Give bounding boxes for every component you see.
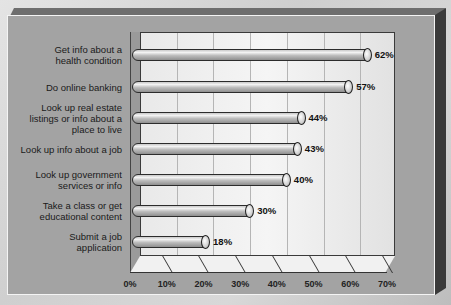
category-label: Do online banking: [4, 82, 122, 93]
gridline: [360, 33, 361, 255]
bar-end-cap: [297, 111, 306, 125]
bar-end-cap: [293, 142, 302, 156]
value-label: 62%: [375, 49, 394, 60]
value-label: 44%: [309, 112, 328, 123]
bar: [132, 49, 368, 61]
plot-floor-edge: [130, 272, 387, 273]
category-label: Look up info about a job: [4, 144, 122, 155]
value-label: 43%: [305, 143, 324, 154]
x-tick-label: 50%: [299, 279, 329, 289]
value-label: 18%: [213, 236, 232, 247]
x-tick-label: 70%: [372, 279, 402, 289]
bar-end-cap: [282, 173, 291, 187]
value-label: 40%: [294, 174, 313, 185]
bar-end-cap: [201, 235, 210, 249]
x-tick-label: 0%: [115, 279, 145, 289]
bar: [132, 81, 349, 93]
bar: [132, 143, 298, 155]
bar: [132, 112, 302, 124]
x-tick-label: 10%: [152, 279, 182, 289]
bar: [132, 174, 287, 186]
x-tick-label: 20%: [188, 279, 218, 289]
bar-end-cap: [363, 48, 372, 62]
category-label: Take a class or geteducational content: [4, 200, 122, 222]
category-label: Look up governmentservices or info: [4, 169, 122, 191]
x-tick-label: 40%: [262, 279, 292, 289]
category-label: Get info about ahealth condition: [4, 44, 122, 66]
background-panel-side: [435, 8, 446, 295]
x-tick-label: 30%: [225, 279, 255, 289]
x-tick-label: 60%: [335, 279, 365, 289]
value-label: 30%: [257, 205, 276, 216]
value-label: 57%: [356, 81, 375, 92]
bar: [132, 236, 206, 248]
bar: [132, 205, 250, 217]
category-label: Submit a jobapplication: [4, 231, 122, 253]
category-label: Look up real estatelistings or info abou…: [4, 102, 122, 135]
